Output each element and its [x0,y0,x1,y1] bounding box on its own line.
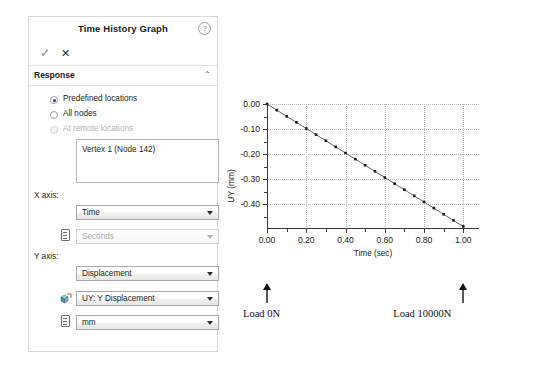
x-axis-quantity-value: Time [82,208,100,217]
x-axis-label: X axis: [34,191,59,200]
unit-ruler-icon [61,229,70,241]
unit-ruler-icon [61,315,70,327]
x-axis-tick-label: 0.00 [259,235,276,245]
x-axis-tick [346,229,347,233]
up-arrow-icon [261,282,273,304]
y-axis-component-select[interactable]: UY: Y Displacement [76,291,219,306]
x-axis-tick-label: 0.40 [337,235,354,245]
help-question-icon[interactable]: ? [198,22,211,35]
x-axis-tick-label: 0.80 [416,235,433,245]
x-axis-minor-tick [365,229,366,232]
y-axis-component-value: UY: Y Displacement [82,294,155,303]
close-x-icon[interactable]: ✕ [58,46,72,60]
data-series-uy [267,104,479,229]
radio-label: Predefined locations [63,94,137,103]
x-axis-tick [306,229,307,233]
list-item[interactable]: Vertex 1 (Node 142) [82,145,155,154]
y-axis-unit-select[interactable]: mm [76,315,219,330]
chevron-down-icon[interactable] [207,211,213,215]
selected-locations-list[interactable]: Vertex 1 (Node 142) [76,139,219,183]
y-axis-quantity-select[interactable]: Displacement [76,266,219,281]
time-history-graph-panel: Time History Graph ? ✓ ✕ Response ⌃ Pred… [28,16,218,352]
y-axis-label: Y axis: [34,252,58,261]
x-axis-minor-tick [326,229,327,232]
x-axis-tick-label: 0.20 [298,235,315,245]
x-axis-title: Time (sec) [267,249,479,258]
x-axis-tick [463,229,464,233]
chevron-down-icon[interactable] [207,321,213,325]
panel-header: Time History Graph ? [29,17,217,43]
y-axis-tick [263,154,267,155]
chevron-down-icon[interactable] [207,272,213,276]
y-axis-tick [263,204,267,205]
chevron-down-icon[interactable] [207,297,213,301]
up-arrow-icon [457,282,469,304]
y-axis-tick-label: -0.10 [240,124,260,134]
y-axis-tick-label: -0.30 [240,174,260,184]
x-axis-tick-label: 1.00 [455,235,472,245]
panel-action-row: ✓ ✕ [29,43,217,66]
y-axis-tick-label: -0.40 [240,199,260,209]
time-history-chart: UY (mm) 0.000.200.400.600.801.000.00-0.1… [216,86,526,286]
y-axis-tick-label: -0.20 [240,149,260,159]
x-axis-minor-tick [404,229,405,232]
chevron-down-icon [207,235,213,239]
x-axis-unit-select: Seconds [76,229,219,244]
radio-button-indicator[interactable] [50,96,58,104]
y-axis-tick [263,179,267,180]
y-axis-tick [263,129,267,130]
plot-region: 0.000.200.400.600.801.000.00-0.10-0.20-0… [267,104,479,229]
radio-label: All nodes [63,109,97,118]
y-axis-quantity-value: Displacement [82,269,132,278]
radio-button-indicator[interactable] [50,111,58,119]
radio-button-indicator [50,126,58,134]
y-axis-unit-value: mm [82,318,96,327]
x-axis-tick [267,229,268,233]
x-axis-tick-label: 0.60 [376,235,393,245]
response-section-header[interactable]: Response ⌃ [29,66,217,86]
y-axis-minor-tick [264,142,267,143]
x-axis-tick [424,229,425,233]
load-end-label: Load 10000N [393,308,451,319]
y-axis-minor-tick [264,217,267,218]
y-axis-minor-tick [264,167,267,168]
y-axis-minor-tick [264,117,267,118]
x-axis-tick [385,229,386,233]
y-axis-title: UY (mm) [226,169,236,202]
x-axis-unit-value: Seconds [82,232,114,241]
response-section-label: Response [34,70,75,80]
y-axis-tick-label: 0.00 [243,99,260,109]
y-axis-minor-tick [264,192,267,193]
radio-label: At remote locations [63,124,133,133]
checkmark-icon[interactable]: ✓ [38,46,52,60]
chevron-up-icon[interactable]: ⌃ [204,70,211,79]
x-axis-minor-tick [287,229,288,232]
page-title: Time History Graph [29,23,217,34]
vector-component-icon [60,291,72,303]
x-axis-minor-tick [444,229,445,232]
y-axis-tick [263,104,267,105]
load-start-label: Load 0N [243,308,280,319]
x-axis-quantity-select[interactable]: Time [76,205,219,220]
